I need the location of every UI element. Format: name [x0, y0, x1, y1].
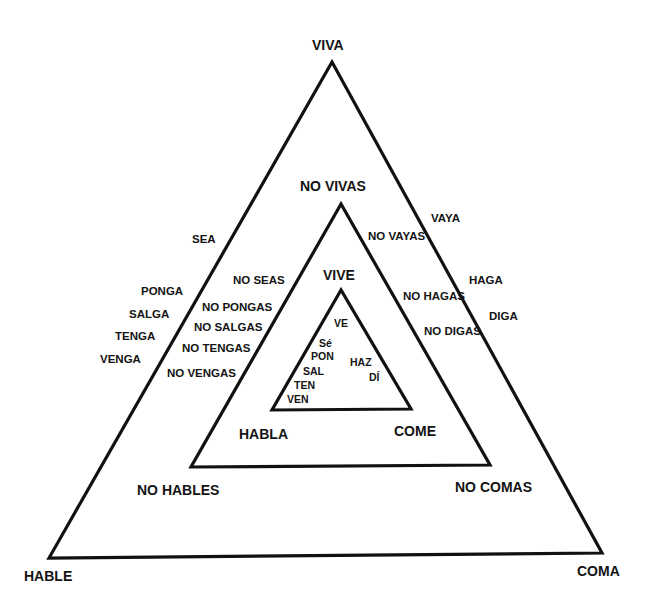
- middle-bottom-right-label: NO COMAS: [455, 480, 532, 494]
- outer-top-label: VIVA: [312, 38, 344, 52]
- middle-left-item: NO SALGAS: [194, 322, 262, 334]
- outer-bottom-right-label: COMA: [577, 564, 620, 578]
- outer-right-item: DIGA: [489, 311, 518, 323]
- outer-left-item: SALGA: [129, 309, 169, 321]
- triangles-diagram: [0, 0, 651, 592]
- middle-left-item: NO SEAS: [233, 275, 285, 287]
- inner-bottom-right-label: COME: [394, 424, 436, 438]
- middle-left-item: NO PONGAS: [202, 302, 272, 314]
- inner-left-item: Sé: [319, 338, 332, 349]
- inner-top-item: VE: [334, 318, 348, 329]
- inner-bottom-left-label: HABLA: [239, 427, 288, 441]
- inner-left-item: TEN: [294, 380, 315, 391]
- inner-right-item: HAZ: [350, 357, 372, 368]
- outer-left-item: TENGA: [115, 331, 155, 343]
- outer-right-item: HAGA: [469, 275, 503, 287]
- inner-left-item: SAL: [303, 366, 324, 377]
- outer-left-item: SEA: [192, 234, 216, 246]
- inner-top-label: VIVE: [323, 268, 355, 282]
- middle-top-label: NO VIVAS: [300, 179, 366, 193]
- outer-left-item: VENGA: [100, 354, 141, 366]
- outer-bottom-left-label: HABLE: [24, 569, 72, 583]
- outer-left-item: PONGA: [141, 286, 183, 298]
- outer-right-item: VAYA: [431, 213, 460, 225]
- middle-left-item: NO VENGAS: [167, 368, 236, 380]
- inner-triangle: [272, 290, 411, 410]
- middle-right-item: NO VAYAS: [368, 231, 425, 243]
- middle-right-item: NO HAGAS: [403, 291, 465, 303]
- middle-right-item: NO DIGAS: [424, 326, 481, 338]
- middle-bottom-left-label: NO HABLES: [137, 483, 219, 497]
- inner-left-item: PON: [311, 351, 334, 362]
- middle-left-item: NO TENGAS: [182, 343, 250, 355]
- inner-right-item: DÍ: [369, 372, 380, 383]
- inner-left-item: VEN: [287, 394, 309, 405]
